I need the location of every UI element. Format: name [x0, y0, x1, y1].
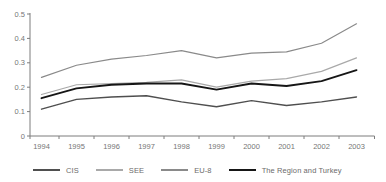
x-tick-label: 1996: [103, 142, 120, 151]
y-tick-label: 0.4: [15, 34, 25, 43]
legend-line-swatch: [33, 169, 60, 171]
x-tick-label: 2000: [243, 142, 260, 151]
x-tick-label: 1994: [33, 142, 50, 151]
legend-line-swatch: [229, 169, 256, 171]
x-tick-label: 1998: [173, 142, 190, 151]
legend-line-swatch: [161, 169, 188, 171]
legend-item-eu-8: EU-8: [161, 166, 212, 175]
legend: CISSEEEU-8The Region and Turkey: [33, 164, 342, 176]
legend-label: The Region and Turkey: [262, 166, 342, 175]
x-tick-label: 1995: [68, 142, 85, 151]
legend-item-see: SEE: [96, 166, 144, 175]
legend-label: EU-8: [194, 166, 212, 175]
plot-area: 00.10.20.30.40.5199419951996199719981999…: [0, 0, 386, 160]
y-tick-label: 0.3: [15, 58, 25, 67]
legend-label: CIS: [66, 166, 79, 175]
y-tick-label: 0.2: [15, 83, 25, 92]
x-tick-label: 2003: [348, 142, 365, 151]
line-chart: 00.10.20.30.40.5199419951996199719981999…: [0, 0, 386, 182]
y-tick-label: 0.1: [15, 107, 25, 116]
x-tick-label: 1999: [208, 142, 225, 151]
legend-item-cis: CIS: [33, 166, 79, 175]
x-tick-label: 1997: [138, 142, 155, 151]
y-tick-label: 0.5: [15, 10, 25, 19]
y-tick-label: 0: [21, 132, 25, 141]
legend-line-swatch: [96, 169, 123, 171]
legend-item-the-region-and-turkey: The Region and Turkey: [229, 166, 342, 175]
series-line-cis: [42, 96, 357, 109]
legend-label: SEE: [129, 166, 144, 175]
x-tick-label: 2001: [278, 142, 295, 151]
series-line-eu-8: [42, 24, 357, 78]
x-tick-label: 2002: [313, 142, 330, 151]
